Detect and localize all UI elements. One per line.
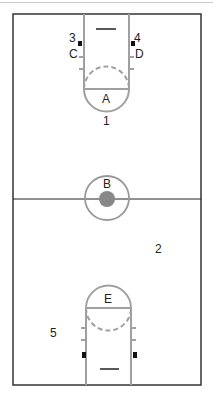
block-3 (78, 41, 82, 46)
center-dot (99, 191, 115, 207)
label-a: A (102, 93, 110, 105)
label-5: 5 (50, 327, 57, 339)
label-b: B (103, 178, 111, 190)
label-4: 4 (134, 32, 141, 44)
label-3: 3 (69, 32, 76, 44)
label-e: E (104, 293, 112, 305)
label-d: D (135, 48, 144, 60)
label-1: 1 (103, 115, 110, 127)
label-c: C (69, 48, 78, 60)
label-2: 2 (155, 243, 162, 255)
block-left-bottom (82, 352, 86, 358)
block-right-bottom (133, 352, 137, 358)
court-diagram (0, 0, 213, 397)
